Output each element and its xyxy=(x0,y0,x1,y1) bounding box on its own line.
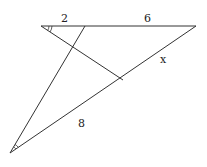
angle-arc-bottom-left-outer xyxy=(15,145,18,148)
angle-arc-top-left-inner xyxy=(48,26,49,30)
label-top-right-segment: 6 xyxy=(144,12,151,25)
label-hypotenuse-upper: x xyxy=(160,53,167,66)
label-top-left-segment: 2 xyxy=(61,12,68,25)
hypotenuse xyxy=(10,26,196,153)
cevian-bottom-to-top xyxy=(10,26,85,153)
angle-arc-top-left-outer xyxy=(50,26,52,32)
label-hypotenuse-lower: 8 xyxy=(78,117,85,130)
segment-top-left-to-hypotenuse xyxy=(41,26,123,80)
geometry-diagram: 2 6 x 8 xyxy=(0,0,207,167)
angle-arc-bottom-left-inner xyxy=(14,147,16,149)
